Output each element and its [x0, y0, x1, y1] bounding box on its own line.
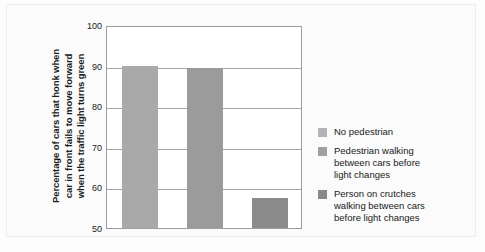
bar-3[interactable] — [252, 198, 288, 228]
y-tick-label-90: 90 — [78, 62, 102, 72]
legend-label-2: Pedestrian walkingbetween cars beforelig… — [334, 145, 420, 181]
y-tick-label-50: 50 — [78, 224, 102, 234]
y-tick-label-80: 80 — [78, 102, 102, 112]
y-tick-label-100: 100 — [78, 21, 102, 31]
chart-legend: No pedestrianPedestrian walkingbetween c… — [318, 126, 468, 231]
legend-label-1: No pedestrian — [334, 126, 393, 138]
legend-swatch-icon-1 — [318, 128, 327, 137]
legend-swatch-icon-2 — [318, 147, 327, 156]
legend-label-3: Person on crutcheswalking between carsbe… — [334, 188, 425, 224]
chart-figure: Percentage of cars that honk when car in… — [0, 0, 485, 252]
legend-item-2[interactable]: Pedestrian walkingbetween cars beforelig… — [318, 145, 468, 181]
bar-1[interactable] — [122, 66, 158, 228]
y-tick-label-70: 70 — [78, 143, 102, 153]
legend-swatch-icon-3 — [318, 190, 327, 199]
y-axis-tick-labels: 5060708090100 — [76, 26, 102, 229]
bar-2[interactable] — [187, 68, 223, 228]
y-tick-label-60: 60 — [78, 183, 102, 193]
plot-area — [106, 26, 302, 229]
legend-item-3[interactable]: Person on crutcheswalking between carsbe… — [318, 188, 468, 224]
plot-inner — [107, 27, 301, 228]
y-axis-title-line-2: car in front fails to move forward — [63, 49, 76, 203]
y-axis-title-line-1: Percentage of cars that honk when — [50, 49, 63, 203]
legend-item-1[interactable]: No pedestrian — [318, 126, 468, 138]
